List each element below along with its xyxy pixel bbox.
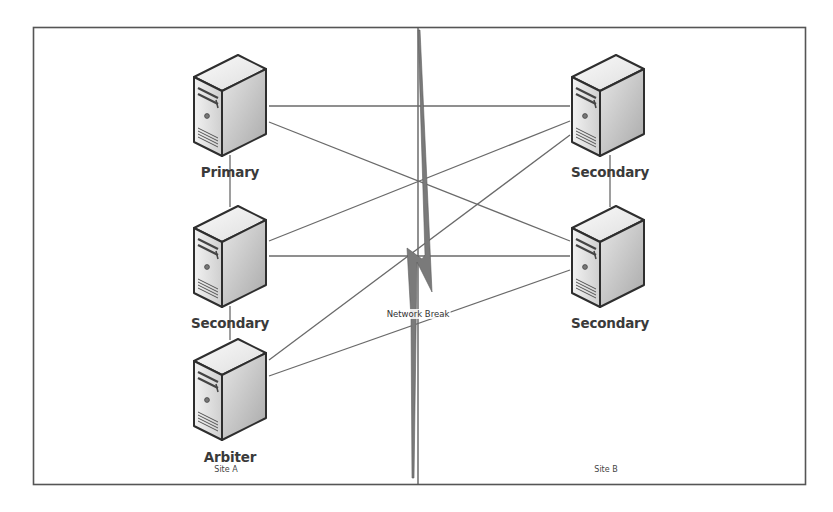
node-label-secondary-b1: Secondary — [571, 164, 649, 180]
lightning-bolt-icon — [407, 30, 432, 478]
server-icon-secondary-b1[interactable] — [572, 55, 644, 156]
network-break-label: Network Break — [386, 309, 451, 319]
node-label-secondary-b2: Secondary — [571, 315, 649, 331]
server-icon-secondary-b2[interactable] — [572, 206, 644, 307]
node-label-arbiter: Arbiter — [204, 449, 256, 465]
diagram-canvas — [0, 0, 833, 512]
site-label-a: Site A — [214, 465, 237, 474]
server-icon-secondary-a[interactable] — [194, 206, 266, 307]
link-arbiter-bsec1 — [269, 135, 570, 360]
links — [230, 106, 610, 376]
server-icon-primary[interactable] — [194, 55, 266, 156]
node-label-secondary-a: Secondary — [191, 315, 269, 331]
site-label-b: Site B — [594, 465, 617, 474]
server-icon-arbiter[interactable] — [194, 339, 266, 440]
node-label-primary: Primary — [201, 164, 259, 180]
link-arbiter-bsec2 — [269, 270, 570, 376]
